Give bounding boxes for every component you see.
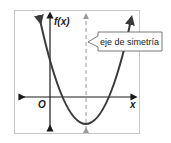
parabola-diagram: f(x) x O eje de simetría — [0, 0, 171, 143]
x-axis-label: x — [129, 99, 136, 110]
graph-frame — [15, 11, 140, 134]
callout-label: eje de simetría — [100, 37, 159, 47]
origin-label: O — [38, 99, 46, 110]
y-axis-label: f(x) — [54, 16, 70, 27]
